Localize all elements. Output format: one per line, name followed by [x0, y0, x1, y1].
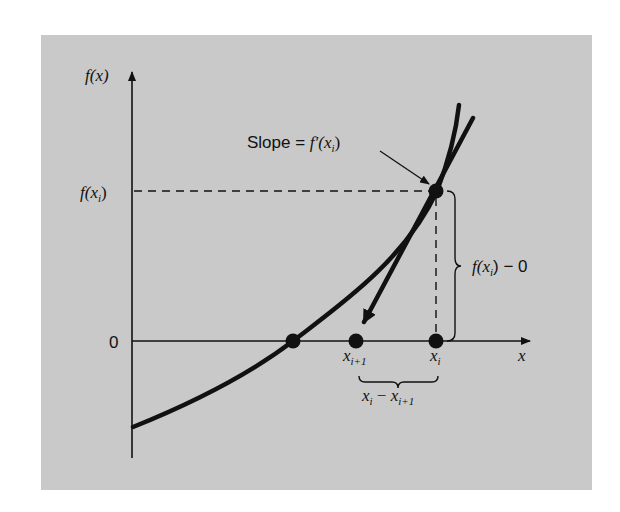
vertical-brace — [447, 191, 461, 341]
tangent-line — [364, 118, 473, 322]
f-xi-point — [429, 184, 444, 199]
x-i-plus-1-point — [349, 334, 364, 349]
root-point — [286, 334, 301, 349]
function-curve — [133, 105, 459, 427]
f-xi-tick-label: f(xi) — [80, 183, 107, 204]
x-axis-label: x — [517, 346, 526, 365]
vertical-brace-label: f(xi) − 0 — [472, 257, 528, 278]
horizontal-brace — [359, 376, 438, 388]
slope-label: Slope = f′(xi) — [247, 133, 340, 154]
newton-raphson-diagram: f(x) f(xi) 0 x Slope = f′(xi) f(xi) − 0 … — [0, 0, 620, 512]
x-i-plus-1-label: xi+1 — [342, 346, 367, 367]
slope-pointer-arrow — [380, 151, 429, 184]
x-i-label: xi — [429, 346, 441, 367]
zero-tick-label: 0 — [109, 333, 118, 352]
y-axis-label: f(x) — [85, 66, 109, 85]
horizontal-brace-label: xi − xi+1 — [361, 386, 414, 407]
